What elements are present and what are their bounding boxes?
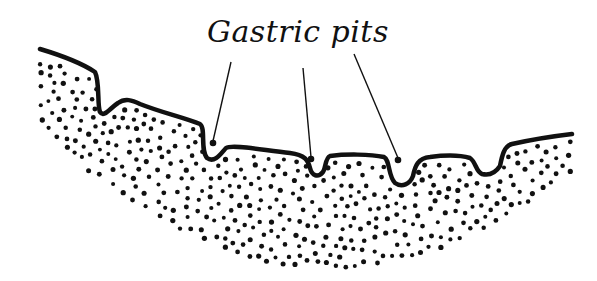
- leader-pit-3-end-dot: [395, 157, 400, 162]
- leader-pit-3: [354, 54, 398, 158]
- leader-pit-1-end-dot: [210, 140, 215, 145]
- leader-pit-1: [213, 62, 231, 141]
- gastric-pits-label: Gastric pits: [207, 14, 389, 49]
- leader-pit-2-end-dot: [308, 156, 313, 161]
- leader-pit-2: [303, 68, 311, 157]
